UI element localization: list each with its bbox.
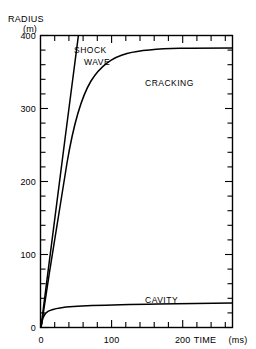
x-axis-label: TIME <box>194 335 217 345</box>
y-tick-label-0: 0 <box>31 323 36 333</box>
x-tick-label-100: 100 <box>104 335 120 345</box>
y-axis-unit: (m) <box>23 24 37 34</box>
annotation-cracking: CRACKING <box>145 78 194 88</box>
chart-figure: 400 300 200 100 0 0 100 200 RADIUS (m) T… <box>0 0 256 349</box>
annotation-shock-wave-line2: WAVE <box>84 57 110 67</box>
x-axis-unit: (ms) <box>229 335 248 345</box>
annotation-shock-wave-line1: SHOCK <box>74 45 107 55</box>
x-tick-label-200: 200 <box>175 335 191 345</box>
y-tick-labels: 400 300 200 100 0 <box>20 31 36 333</box>
y-tick-label-200: 200 <box>20 177 36 187</box>
y-tick-label-300: 300 <box>20 104 36 114</box>
y-tick-label-100: 100 <box>20 250 36 260</box>
x-tick-label-0: 0 <box>38 335 43 345</box>
x-tick-labels: 0 100 200 <box>38 335 190 345</box>
y-axis-label: RADIUS <box>8 14 44 24</box>
annotation-cavity: CAVITY <box>145 295 178 305</box>
plot-frame <box>41 36 233 328</box>
radius-time-line-chart: 400 300 200 100 0 0 100 200 RADIUS (m) T… <box>0 0 256 349</box>
